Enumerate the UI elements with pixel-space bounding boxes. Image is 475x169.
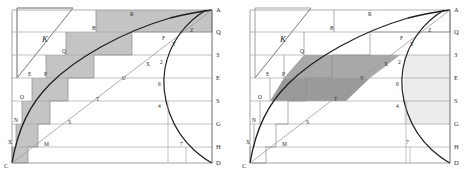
point-label-n: N	[252, 117, 256, 123]
point-label-b: B	[330, 25, 334, 31]
panel-right: K	[238, 0, 475, 169]
diagonal-label-x: X	[384, 61, 388, 67]
shaded-bands	[270, 55, 450, 124]
panel-left: K	[0, 0, 237, 169]
point-label-x: X	[8, 139, 12, 145]
panel-right-drawing: K	[238, 0, 475, 169]
tick-marks	[168, 101, 186, 163]
triangle-k-label: K	[279, 34, 287, 44]
diagonal-label-s: S	[68, 119, 71, 125]
diagonal-label-y: Y	[172, 41, 176, 47]
corner-labels: C	[242, 162, 246, 169]
axis-label-g: G	[454, 120, 459, 127]
descending-curve	[164, 10, 212, 163]
diagonal-label-m: M	[44, 141, 49, 147]
axis-label-a: A	[216, 6, 221, 13]
curve-label-f: F	[400, 35, 403, 41]
panel-left-drawing: K	[0, 0, 237, 169]
diagonal-label-x: X	[146, 61, 150, 67]
axis-label-a: A	[454, 6, 459, 13]
point-label-q: Q	[62, 48, 66, 54]
curve-label-6: 6	[396, 81, 399, 87]
corner-labels: C	[4, 162, 8, 169]
curve-label-4: 4	[158, 103, 161, 109]
point-label-r: R	[368, 11, 372, 17]
axis-label-h: H	[216, 143, 221, 150]
curve-label-4: 4	[396, 103, 399, 109]
curve-label-f: F	[162, 35, 165, 41]
axis-label-q: Q	[454, 28, 459, 35]
diagonal-label-y: Y	[410, 41, 414, 47]
curve-label-6: 6	[158, 81, 161, 87]
axis-label-e: E	[216, 74, 220, 81]
figure-container: K	[0, 0, 475, 169]
corner-label-c: C	[242, 162, 246, 169]
point-label-e: E	[28, 71, 32, 77]
curve-point-labels: F 2 6 4 7	[158, 35, 183, 147]
axis-labels-right: A Q 3 E S G H D	[216, 6, 221, 166]
curve-label-2: 2	[160, 59, 163, 65]
axis-labels-right: A Q 3 E S G H D	[454, 6, 459, 166]
axis-label-s: S	[454, 97, 458, 104]
curve-label-2: 2	[398, 59, 401, 65]
axis-label-g: G	[216, 120, 221, 127]
curve-label-7: 7	[406, 139, 409, 145]
point-label-q: Q	[300, 48, 304, 54]
point-label-p: P	[44, 71, 47, 77]
point-label-x: X	[246, 139, 250, 145]
axis-label-3: 3	[216, 51, 219, 58]
axis-label-q: Q	[216, 28, 221, 35]
triangle-k-label: K	[41, 34, 49, 44]
point-label-e: E	[266, 71, 270, 77]
axis-label-h: H	[454, 143, 459, 150]
diagonal-label-u: U	[122, 75, 126, 81]
point-label-o: O	[20, 94, 24, 100]
point-label-p: P	[282, 71, 285, 77]
axis-label-d: D	[454, 159, 459, 166]
axis-label-e: E	[454, 74, 458, 81]
point-label-n: N	[14, 117, 18, 123]
point-label-r: R	[130, 11, 134, 17]
axis-label-3: 3	[454, 51, 457, 58]
point-label-b: B	[92, 25, 96, 31]
point-label-o: O	[258, 94, 262, 100]
axis-label-d: D	[216, 159, 221, 166]
axis-label-s: S	[216, 97, 220, 104]
diagonal-label-v: V	[360, 75, 364, 81]
curve-label-7: 7	[180, 141, 183, 147]
corner-label-c: C	[4, 162, 8, 169]
diagonal-label-m: M	[282, 141, 287, 147]
diagonal-label-s: S	[306, 119, 309, 125]
